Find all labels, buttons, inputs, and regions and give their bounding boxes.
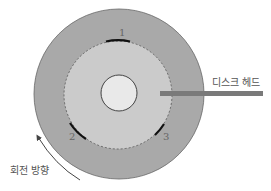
sector-1-label: 1 <box>119 27 125 38</box>
sector-3-label: 3 <box>163 131 169 142</box>
disk-head-label: 디스크 헤드 <box>212 77 260 88</box>
disk-hub <box>101 75 137 111</box>
disk-diagram: 1 2 3 디스크 헤드 회전 방향 <box>0 0 271 191</box>
rotation-direction-label: 회전 방향 <box>10 165 49 176</box>
disk-head-arm <box>160 91 263 96</box>
sector-2-label: 2 <box>69 131 75 142</box>
